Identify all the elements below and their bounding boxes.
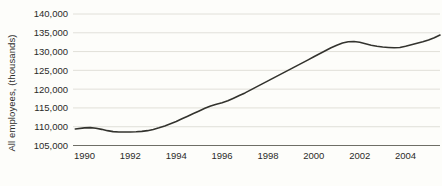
y-axis-tick-label: 110,000	[34, 121, 68, 132]
x-axis-tick-labels: 19901992199419961998200020022004	[74, 150, 416, 161]
x-axis-tick-label: 1992	[120, 150, 141, 161]
y-axis-tick-label: 115,000	[34, 102, 68, 113]
y-axis-tick-label: 140,000	[34, 8, 68, 19]
employment-line-chart: All employees, (thousands) 105,000110,00…	[0, 0, 442, 186]
y-axis-tick-label: 120,000	[34, 84, 68, 95]
data-series-line	[75, 35, 440, 132]
x-axis-tick-label: 2000	[303, 150, 324, 161]
x-axis-tick-label: 1996	[212, 150, 233, 161]
chart-plot-area: 105,000110,000115,000120,000125,000130,0…	[0, 0, 442, 186]
x-axis-tick-label: 1998	[257, 150, 278, 161]
x-axis-tick-label: 1994	[166, 150, 187, 161]
x-axis-tick-label: 1990	[74, 150, 95, 161]
gridlines	[73, 14, 440, 127]
y-axis-tick-label: 125,000	[34, 65, 68, 76]
y-axis-tick-label: 130,000	[34, 46, 68, 57]
y-axis-tick-label: 135,000	[34, 27, 68, 38]
x-axis-tick-label: 2002	[349, 150, 370, 161]
y-axis-tick-label: 105,000	[34, 140, 68, 151]
x-axis-tick-label: 2004	[395, 150, 416, 161]
y-axis-tick-labels: 105,000110,000115,000120,000125,000130,0…	[34, 8, 68, 151]
